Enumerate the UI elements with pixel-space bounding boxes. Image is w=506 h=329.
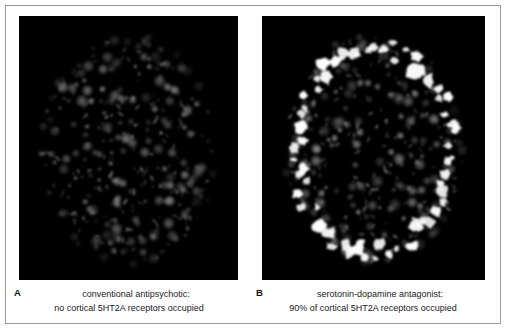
panels-row	[0, 0, 506, 329]
brain-scan-image-a	[19, 16, 238, 280]
scan-panel-a[interactable]	[19, 16, 238, 280]
caption-b-line-2: 90% of cortical 5HT2A receptors occupied	[256, 301, 490, 315]
caption-a-line-1: conventional antipsychotic:	[14, 287, 244, 301]
scan-panel-b[interactable]	[262, 16, 485, 280]
caption-panel-a: A conventional antipsychotic: no cortica…	[14, 287, 244, 321]
brain-scan-image-b	[262, 16, 485, 280]
caption-b-line-1: serotonin-dopamine antagonist:	[256, 287, 490, 301]
caption-panel-b: B serotonin-dopamine antagonist: 90% of …	[256, 287, 490, 321]
figure-root: A conventional antipsychotic: no cortica…	[0, 0, 506, 329]
caption-text-a: conventional antipsychotic: no cortical …	[14, 287, 244, 315]
caption-a-line-2: no cortical 5HT2A receptors occupied	[14, 301, 244, 315]
caption-text-b: serotonin-dopamine antagonist: 90% of co…	[256, 287, 490, 315]
